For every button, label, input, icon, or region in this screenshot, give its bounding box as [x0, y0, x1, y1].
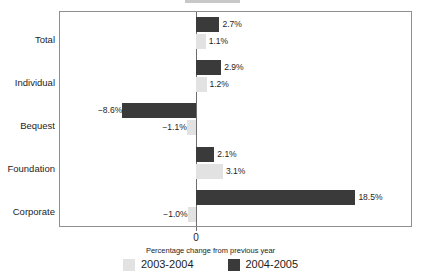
- bar-track-total-2004-2005: 2.7%: [60, 17, 411, 32]
- bar-track-individual-2003-2004: 1.2%: [60, 77, 411, 92]
- bar-individual-2003-2004[interactable]: [196, 77, 206, 92]
- chart-row-corporate: 18.5% −1.0%: [60, 185, 411, 228]
- chart-figure: 2.7% 1.1% 2.9% 1.2% −8.6%: [0, 0, 421, 279]
- bar-track-total-2003-2004: 1.1%: [60, 34, 411, 49]
- bar-label-foundation-2004-2005: 2.1%: [214, 148, 236, 161]
- legend-swatch-icon-2004-2005: [228, 259, 240, 271]
- zero-axis-tick: [196, 227, 197, 231]
- legend-swatch-icon-2003-2004: [123, 259, 135, 271]
- bar-track-individual-2004-2005: 2.9%: [60, 60, 411, 75]
- bar-label-bequest-2004-2005: −8.6%: [60, 104, 125, 117]
- bar-label-individual-2004-2005: 2.9%: [221, 61, 243, 74]
- x-axis-caption: Percentage change from previous year: [0, 246, 421, 256]
- bar-label-total-2003-2004: 1.1%: [206, 35, 228, 48]
- legend-label-2003-2004: 2003-2004: [141, 258, 194, 271]
- bar-label-bequest-2003-2004: −1.1%: [60, 121, 190, 134]
- x-tick-label-zero: 0: [186, 232, 206, 244]
- plot-area: 2.7% 1.1% 2.9% 1.2% −8.6%: [59, 11, 412, 227]
- chart-row-total: 2.7% 1.1%: [60, 12, 411, 55]
- bar-total-2003-2004[interactable]: [196, 34, 205, 49]
- bar-track-bequest-2003-2004: −1.1%: [60, 120, 411, 135]
- legend-item-2004-2005[interactable]: 2004-2005: [228, 258, 299, 271]
- category-label-corporate: Corporate: [0, 206, 55, 217]
- bar-label-individual-2003-2004: 1.2%: [207, 78, 229, 91]
- bar-track-bequest-2004-2005: −8.6%: [60, 103, 411, 118]
- bar-label-corporate-2003-2004: −1.0%: [60, 208, 191, 221]
- bar-total-2004-2005[interactable]: [196, 17, 219, 32]
- bar-track-corporate-2004-2005: 18.5%: [60, 190, 411, 205]
- category-label-foundation: Foundation: [0, 163, 55, 174]
- bar-bequest-2004-2005[interactable]: [122, 103, 196, 118]
- bar-label-corporate-2004-2005: 18.5%: [355, 191, 382, 204]
- category-label-bequest: Bequest: [0, 120, 55, 131]
- bar-label-foundation-2003-2004: 3.1%: [223, 165, 245, 178]
- bar-track-foundation-2004-2005: 2.1%: [60, 147, 411, 162]
- chart-legend: 2003-2004 2004-2005: [0, 258, 421, 271]
- chart-row-foundation: 2.1% 3.1%: [60, 142, 411, 185]
- bar-track-foundation-2003-2004: 3.1%: [60, 164, 411, 179]
- bar-individual-2004-2005[interactable]: [196, 60, 221, 75]
- chart-row-bequest: −8.6% −1.1%: [60, 98, 411, 141]
- cropped-title-sliver: [185, 0, 240, 3]
- bar-foundation-2004-2005[interactable]: [196, 147, 214, 162]
- bar-corporate-2004-2005[interactable]: [196, 190, 355, 205]
- bar-foundation-2003-2004[interactable]: [196, 164, 223, 179]
- bar-track-corporate-2003-2004: −1.0%: [60, 207, 411, 222]
- chart-row-individual: 2.9% 1.2%: [60, 55, 411, 98]
- bar-label-total-2004-2005: 2.7%: [219, 18, 241, 31]
- category-label-individual: Individual: [0, 77, 55, 88]
- legend-label-2004-2005: 2004-2005: [246, 258, 299, 271]
- category-label-total: Total: [0, 34, 55, 45]
- legend-item-2003-2004[interactable]: 2003-2004: [123, 258, 194, 271]
